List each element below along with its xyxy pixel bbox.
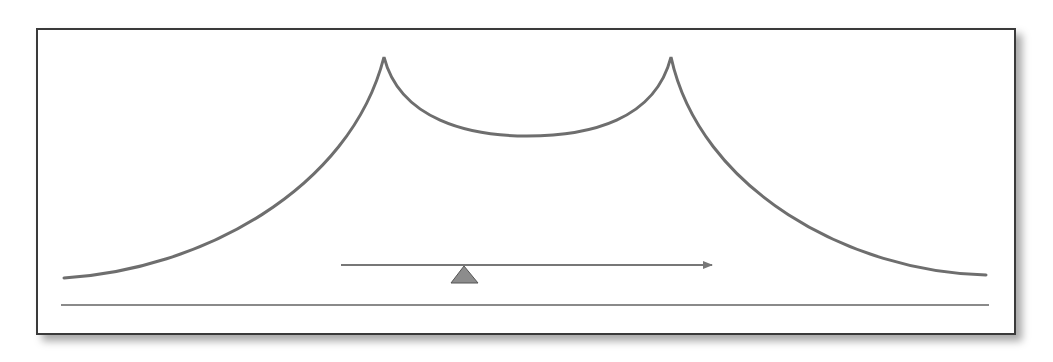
diagram-canvas	[0, 0, 1053, 362]
energy-curve	[64, 57, 986, 278]
triangle-marker-icon	[451, 266, 478, 283]
